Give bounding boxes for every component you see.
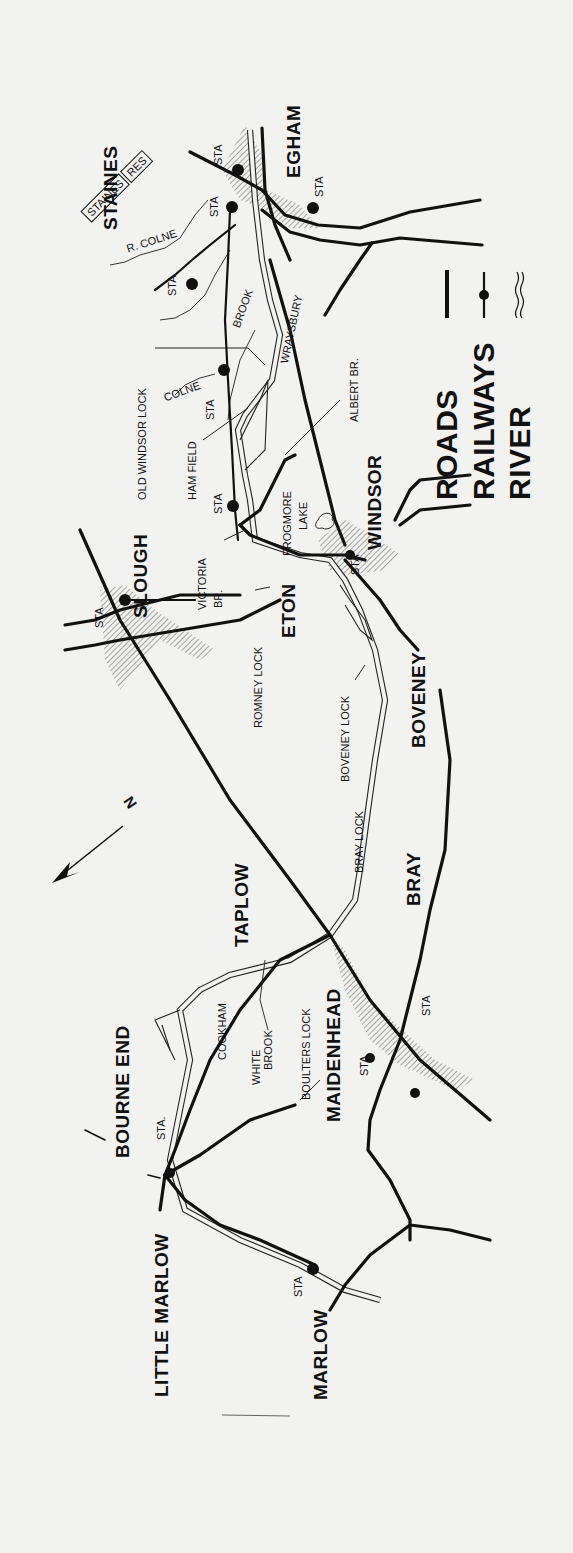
station-datchet — [227, 500, 239, 512]
map-canvas — [0, 0, 573, 1553]
town-label-bourne-end: BOURNE END — [112, 1025, 134, 1158]
feature-label-boulters-lock: BOULTERS LOCK — [300, 1009, 312, 1101]
legend-label-railways: RAILWAYS — [467, 342, 501, 500]
station-label-datchet: STA — [212, 493, 224, 514]
station-staines-junction — [232, 164, 244, 176]
feature-label-romney-lock: ROMNEY LOCK — [252, 647, 264, 728]
town-label-marlow: MARLOW — [310, 1309, 332, 1400]
station-staines — [226, 201, 238, 213]
feature-label-lake: LAKE — [297, 502, 309, 530]
station-label-windsor: STA — [349, 554, 361, 575]
feature-label-victoria-br: BR. — [212, 590, 224, 608]
station-wraysbury — [218, 364, 230, 376]
frogmore-lake-shape — [316, 513, 334, 529]
scan-mark — [222, 1415, 290, 1416]
station-label-wraysbury: STA — [204, 399, 216, 420]
station-marlow — [307, 1263, 319, 1275]
north-arrow-icon — [52, 826, 123, 883]
station-label-maidenhead: STA — [358, 1055, 370, 1076]
feature-label-bray-lock: BRAY LOCK — [353, 811, 365, 873]
town-label-taplow: TAPLOW — [231, 863, 253, 947]
town-label-boveney: BOVENEY — [408, 652, 430, 748]
town-label-eton: ETON — [278, 584, 300, 638]
station-label-bourne-end: STA. — [155, 1116, 167, 1140]
legend-label-river: RIVER — [503, 406, 537, 500]
station-label-egham: STA — [313, 176, 325, 197]
feature-label-old-windsor-lock: OLD WINDSOR LOCK — [136, 388, 148, 500]
feature-label-ham-field: HAM FIELD — [186, 441, 198, 500]
maidenhead-urban-area — [330, 935, 475, 1090]
town-label-little-marlow: LITTLE MARLOW — [151, 1233, 173, 1397]
town-label-maidenhead: MAIDENHEAD — [323, 988, 345, 1122]
station-maidenhead-bray — [410, 1088, 420, 1098]
station-egham — [307, 202, 319, 214]
station-label-staines: STA — [208, 196, 220, 217]
feature-label-white: WHITE — [250, 1050, 262, 1085]
station-bourne-end — [165, 1168, 175, 1178]
feature-label-white-brook: BROOK — [262, 1030, 274, 1070]
legend-divider — [400, 505, 470, 525]
station-label-staines-north: STA — [212, 144, 224, 165]
town-label-egham: EGHAM — [283, 105, 305, 178]
railway-line-icon — [479, 272, 489, 318]
station-label-maidenhead-bray: STA — [420, 995, 432, 1016]
legend-symbols — [447, 270, 524, 318]
feature-label-albert-br: ALBERT BR. — [348, 358, 360, 422]
feature-label-victoria: VICTORIA — [196, 558, 208, 610]
town-label-bray: BRAY — [403, 852, 425, 906]
town-label-windsor: WINDSOR — [364, 455, 386, 550]
feature-label-cookham: COOKHAM — [216, 1003, 228, 1060]
river-wavy-icon — [516, 272, 524, 318]
station-colnbrook — [186, 278, 198, 290]
feature-label-frogmore: FROGMORE — [281, 491, 293, 556]
station-label-colnbrook: STA — [166, 275, 178, 296]
station-label-slough: STA — [93, 607, 105, 628]
station-label-marlow: STA — [292, 1276, 304, 1297]
feature-label-boveney-lock: BOVENEY LOCK — [339, 696, 351, 782]
town-label-slough: SLOUGH — [130, 534, 152, 618]
legend-label-roads: ROADS — [430, 389, 464, 500]
